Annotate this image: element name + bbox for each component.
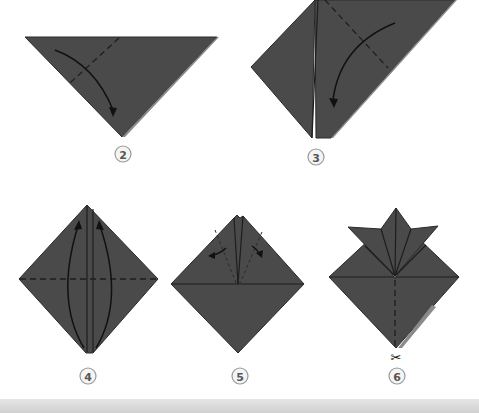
origami-diagram: 2 3 4 [0, 0, 479, 413]
step-2-badge: 2 [115, 146, 131, 162]
step-3-badge: 3 [308, 149, 324, 165]
step-5-badge: 5 [232, 368, 248, 384]
step-5-number: 5 [236, 371, 244, 384]
step-2-paper [25, 37, 217, 137]
step-3-number: 3 [312, 152, 320, 165]
step-4-badge: 4 [80, 368, 96, 384]
step-4-number: 4 [84, 371, 92, 384]
step-6-figure: ✂ [329, 208, 459, 365]
step-6-number: 6 [393, 371, 401, 384]
scissors-icon: ✂ [391, 350, 402, 365]
step-5-figure [171, 215, 304, 353]
step-3-figure [251, 0, 457, 138]
step-6-badge: 6 [389, 368, 405, 384]
step-4-figure [19, 205, 158, 353]
page-bottom-edge [0, 399, 479, 413]
step-2-figure [25, 37, 219, 137]
step-2-number: 2 [119, 149, 127, 162]
step-4-paper [19, 205, 158, 353]
step-3-paper-left [251, 0, 315, 138]
step-3-paper-right [315, 0, 455, 138]
